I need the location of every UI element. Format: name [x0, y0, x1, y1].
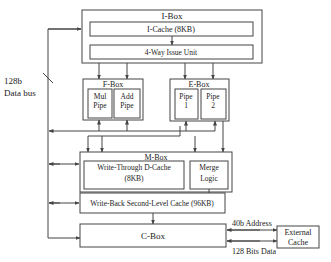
svg-text:Mul: Mul — [94, 92, 107, 101]
i-box-title: I-Box — [162, 11, 183, 21]
processor-block-diagram: 128b Data bus I-Box I-Cache (8KB) 4-Way … — [0, 0, 331, 262]
external-cache: External Cache — [277, 226, 319, 248]
svg-text:(8KB): (8KB) — [124, 174, 144, 183]
result-bus — [49, 120, 223, 152]
svg-text:C-Box: C-Box — [141, 231, 166, 241]
data-link-label: 128 Bits Data — [232, 247, 276, 256]
svg-text:2: 2 — [211, 101, 215, 110]
data-bus — [43, 29, 81, 238]
svg-text:Merge: Merge — [199, 163, 219, 172]
svg-text:Pipe: Pipe — [206, 92, 220, 101]
svg-text:Pipe: Pipe — [120, 101, 134, 110]
svg-text:E-Box: E-Box — [189, 80, 210, 89]
svg-text:Pipe: Pipe — [179, 92, 193, 101]
svg-text:Write-Back Second-Level Cache: Write-Back Second-Level Cache (96KB) — [90, 199, 214, 208]
svg-text:1: 1 — [184, 101, 188, 110]
i-cache-label: I-Cache (8KB) — [147, 25, 195, 34]
svg-text:Pipe: Pipe — [93, 101, 107, 110]
issue-unit-label: 4-Way Issue Unit — [145, 48, 198, 57]
bus-label: Data bus — [4, 88, 36, 98]
i-box: I-Box I-Cache (8KB) 4-Way Issue Unit — [82, 10, 262, 63]
second-level-cache: Write-Back Second-Level Cache (96KB) — [80, 193, 225, 213]
e-box: E-Box Pipe 1 Pipe 2 — [170, 79, 229, 121]
c-box: C-Box — [80, 224, 226, 247]
svg-text:Add: Add — [121, 92, 134, 101]
svg-text:Cache: Cache — [288, 238, 308, 247]
svg-text:F-Box: F-Box — [103, 80, 123, 89]
svg-text:Write-Through D-Cache: Write-Through D-Cache — [97, 163, 171, 172]
bus-width-label: 128b — [4, 76, 23, 86]
svg-text:External: External — [284, 228, 312, 237]
svg-text:Logic: Logic — [200, 174, 218, 183]
f-box: F-Box Mul Pipe Add Pipe — [83, 79, 143, 120]
m-box: M-Box Write-Through D-Cache (8KB) Merge … — [80, 152, 232, 192]
address-link-label: 40b Address — [232, 219, 272, 228]
